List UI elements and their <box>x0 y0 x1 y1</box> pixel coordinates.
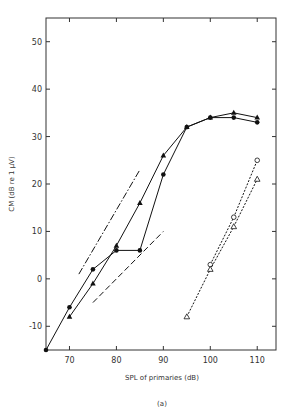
data-point <box>184 314 190 319</box>
series-filled-triangle <box>67 110 260 319</box>
cm-vs-spl-chart: 708090100110-1001020304050 SPL of primar… <box>0 0 291 411</box>
data-point <box>207 266 213 271</box>
figure-caption: (a) <box>157 400 167 408</box>
x-tick-label: 110 <box>250 356 265 365</box>
x-tick-label: 100 <box>203 356 218 365</box>
data-point <box>231 224 237 229</box>
y-tick-label: 10 <box>32 227 42 236</box>
series-open-circle <box>208 158 260 267</box>
series-line <box>210 160 257 264</box>
series-none <box>79 170 140 274</box>
x-tick-label: 80 <box>111 356 121 365</box>
data-point <box>255 158 260 163</box>
data-point <box>114 243 120 248</box>
x-axis-label: SPL of primaries (dB) <box>125 374 199 382</box>
plot-area <box>44 110 260 352</box>
series-line <box>69 113 257 317</box>
x-tick-label: 70 <box>64 356 74 365</box>
series-open-triangle <box>184 176 260 319</box>
series-filled-circle <box>44 115 260 352</box>
series-line <box>46 118 257 350</box>
data-point <box>91 267 96 272</box>
y-tick-label: 20 <box>32 180 42 189</box>
x-tick-label: 90 <box>158 356 168 365</box>
data-point <box>231 215 236 220</box>
plot-frame <box>46 18 276 350</box>
y-tick-label: 0 <box>37 275 42 284</box>
data-point <box>138 248 143 253</box>
y-tick-label: -10 <box>29 322 42 331</box>
data-point <box>161 172 166 177</box>
data-point <box>137 200 143 205</box>
y-tick-label: 40 <box>32 85 42 94</box>
data-point <box>254 176 260 181</box>
series-line <box>79 170 140 274</box>
series-line <box>187 179 257 317</box>
data-point <box>231 110 237 115</box>
data-point <box>231 115 236 120</box>
data-point <box>255 120 260 125</box>
y-tick-label: 30 <box>32 133 42 142</box>
y-tick-label: 50 <box>32 38 42 47</box>
y-axis-label: CM (dB re 1 μV) <box>8 156 16 212</box>
data-point <box>67 305 72 310</box>
data-point <box>44 348 49 353</box>
